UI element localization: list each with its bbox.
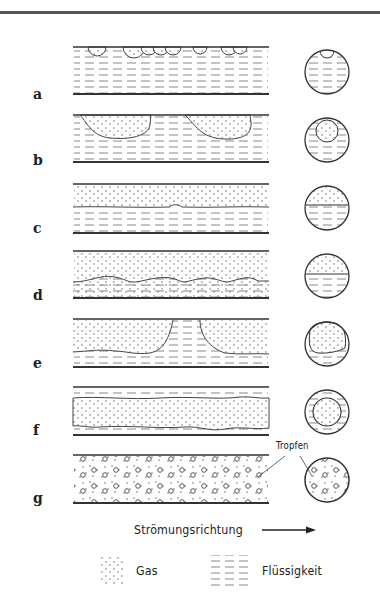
pipe-d-wavy-flow	[73, 251, 269, 298]
row-label-b: b	[33, 152, 43, 168]
pipe-a-bubble-flow	[73, 47, 269, 94]
cross-section-b	[305, 118, 349, 162]
flow-direction-arrow-icon	[262, 527, 316, 534]
cross-section-a	[305, 50, 349, 94]
pipe-g-mist-flow	[73, 455, 269, 503]
cross-section-e	[305, 322, 349, 366]
cross-section-g	[305, 458, 349, 502]
pipe-c-stratified-flow	[73, 184, 269, 233]
cross-section-f	[305, 390, 349, 434]
legend-liquid-label: Flüssigkeit	[262, 563, 322, 578]
row-label-d: d	[33, 287, 43, 303]
flow-direction-label: Strömungsrichtung	[134, 522, 243, 537]
row-label-g: g	[33, 490, 43, 506]
row-label-f: f	[33, 422, 39, 438]
row-label-a: a	[33, 86, 42, 102]
legend-gas-label: Gas	[136, 563, 158, 578]
legend-gas-swatch	[100, 557, 124, 585]
cross-section-d	[305, 254, 349, 299]
pipe-f-annular-flow	[73, 387, 269, 435]
tropfen-annotation: Tropfen	[276, 440, 309, 451]
flow-patterns-figure	[0, 0, 380, 604]
row-label-e: e	[33, 355, 42, 371]
pipe-e-slug-flow	[73, 319, 269, 367]
cross-section-c	[305, 186, 349, 231]
legend-liquid-swatch	[208, 555, 250, 587]
pipe-b-plug-flow	[73, 115, 269, 162]
row-label-c: c	[33, 220, 42, 236]
